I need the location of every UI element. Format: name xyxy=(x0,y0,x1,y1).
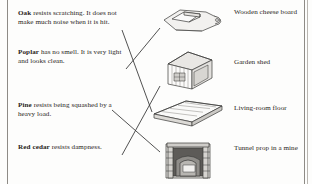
object-label-garden-shed: Garden shed xyxy=(234,58,302,67)
description-text-red-cedar: resists dampness. xyxy=(50,143,102,151)
object-label-cheese-board: Wooden cheese board xyxy=(234,8,302,17)
worksheet-page: Oak resists scratching. It does not make… xyxy=(0,0,312,184)
mine-tunnel-icon xyxy=(158,138,218,182)
description-poplar: Poplar has no smell. It is very light an… xyxy=(18,48,130,66)
description-text-oak: resists scratching. It does not make muc… xyxy=(18,9,117,26)
object-label-tunnel-prop: Tunnel prop in a mine xyxy=(234,144,302,153)
connector-oak-to-floor xyxy=(122,30,152,112)
cheese-board-icon xyxy=(158,4,224,40)
connector-lines xyxy=(0,0,312,184)
connector-poplar-to-board xyxy=(126,28,160,69)
wood-name-red-cedar: Red cedar xyxy=(18,143,50,151)
description-oak: Oak resists scratching. It does not make… xyxy=(18,9,130,27)
garden-shed-icon xyxy=(158,48,220,92)
description-red-cedar: Red cedar resists dampness. xyxy=(18,143,130,152)
wood-name-pine: Pine xyxy=(18,101,32,109)
description-text-pine: resists being squashed by a heavy load. xyxy=(18,101,112,118)
description-pine: Pine resists being squashed by a heavy l… xyxy=(18,101,130,119)
wood-name-poplar: Poplar xyxy=(18,48,39,56)
floorboards-icon xyxy=(152,98,224,132)
object-label-living-room-floor: Living-room floor xyxy=(234,104,302,113)
wood-name-oak: Oak xyxy=(18,9,31,17)
